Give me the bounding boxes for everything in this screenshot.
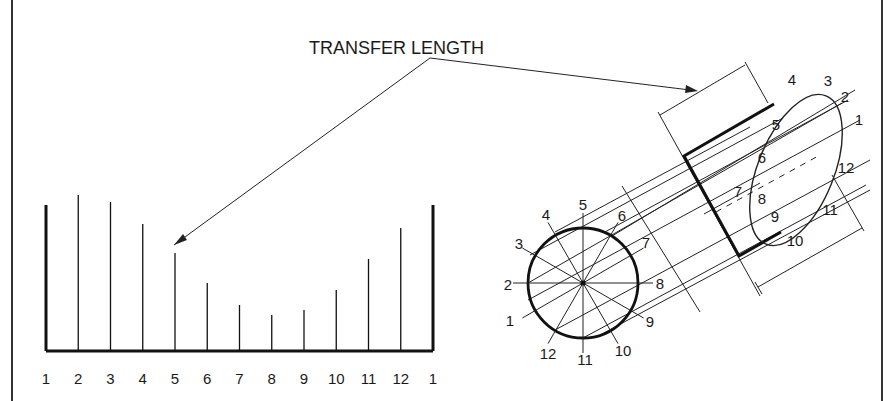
development-view: 1234567891011121 <box>42 195 437 387</box>
development-label: 6 <box>203 370 211 387</box>
development-label: 5 <box>171 370 179 387</box>
circle-label: 5 <box>579 196 587 213</box>
circle-label: 11 <box>577 351 593 368</box>
ellipse-label: 1 <box>855 111 863 128</box>
development-label: 3 <box>106 370 114 387</box>
development-label: 11 <box>361 370 377 387</box>
development-label: 2 <box>74 370 82 387</box>
projection-lines <box>528 90 870 338</box>
development-label: 7 <box>235 370 243 387</box>
development-label: 8 <box>268 370 276 387</box>
circle-label: 10 <box>615 342 632 359</box>
development-label: 9 <box>300 370 308 387</box>
development-label: 4 <box>139 370 147 387</box>
circle-center <box>581 281 586 286</box>
circle-label: 3 <box>515 235 523 252</box>
ellipse-label: 4 <box>788 71 796 88</box>
ellipse-label: 6 <box>758 149 766 166</box>
circle-label: 1 <box>506 312 514 329</box>
circle-label: 9 <box>646 313 654 330</box>
ellipse-labels: 123456789101112 <box>734 71 863 249</box>
ellipse-label: 9 <box>771 208 779 225</box>
arrowhead-left-icon <box>174 234 187 245</box>
circle-label: 4 <box>542 206 550 223</box>
title-transfer-length: TRANSFER LENGTH <box>309 38 484 58</box>
circle-label: 6 <box>618 207 626 224</box>
circle-label: 2 <box>504 276 512 293</box>
development-label: 1 <box>42 370 50 387</box>
development-label: 10 <box>328 370 345 387</box>
projection-view <box>513 62 870 353</box>
ellipse-label: 11 <box>822 201 838 218</box>
ellipse-label: 10 <box>787 232 804 249</box>
circle-label: 7 <box>642 234 650 251</box>
arrowhead-right-icon <box>685 85 698 93</box>
diagram-canvas: TRANSFER LENGTH 1234567891011121 <box>0 0 893 401</box>
development-label: 12 <box>392 370 409 387</box>
ellipse-label: 12 <box>838 159 855 176</box>
ellipse-label: 5 <box>772 116 780 133</box>
ellipse-label: 8 <box>758 190 766 207</box>
ellipse-label: 3 <box>824 72 832 89</box>
ellipse-label: 2 <box>841 88 849 105</box>
circle-label: 8 <box>656 275 664 292</box>
circle-label: 12 <box>540 345 557 362</box>
development-label: 1 <box>429 370 437 387</box>
ellipse-label: 7 <box>734 183 742 200</box>
